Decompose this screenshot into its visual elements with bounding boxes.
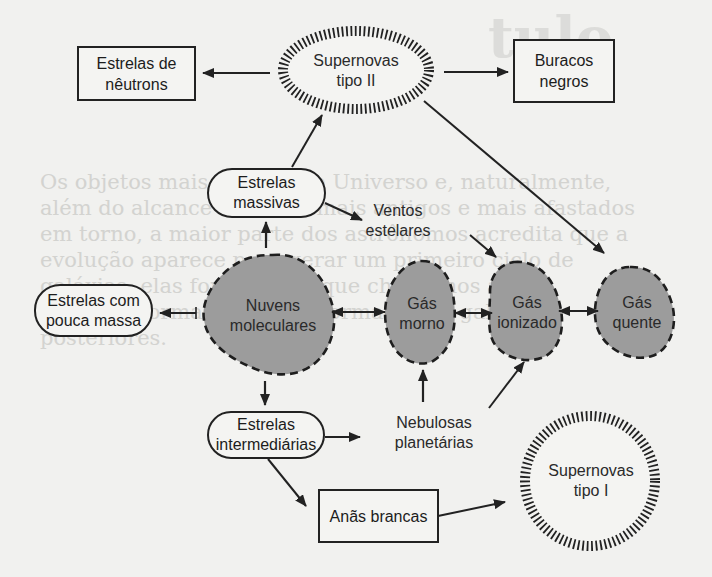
node-label: Estrelas de	[96, 53, 176, 74]
edge-winds-to-ionized	[470, 235, 496, 257]
edge-snii-to-hotgas	[424, 101, 604, 253]
node-label: Estrelas	[238, 173, 296, 193]
node-label: tipo I	[548, 481, 633, 501]
node-black-holes: Buracos negros	[513, 39, 615, 103]
node-molecular-clouds: Nuvens moleculares	[230, 296, 316, 336]
node-label: nêutrons	[105, 74, 167, 95]
node-label: Ventos	[366, 201, 431, 221]
node-label: Estrelas	[237, 415, 295, 435]
node-label: Nuvens	[230, 296, 316, 316]
node-label: Gás	[497, 293, 557, 313]
node-label: Buracos	[535, 50, 594, 71]
edge-clouds-to-lowmass	[160, 307, 196, 319]
node-label: morno	[399, 314, 444, 334]
node-planetary-nebulae: Nebulosas planetárias	[395, 413, 473, 453]
node-ionized-gas: Gás ionizado	[497, 293, 557, 333]
node-label: planetárias	[395, 433, 473, 453]
node-low-mass-stars: Estrelas com pouca massa	[34, 284, 153, 337]
node-label: ionizado	[497, 313, 557, 333]
node-label: Gás	[613, 293, 662, 313]
node-label: tipo II	[313, 71, 398, 91]
node-label: pouca massa	[46, 311, 141, 331]
node-label: moleculares	[230, 316, 316, 336]
node-massive-stars: Estrelas massivas	[207, 168, 326, 218]
node-hot-gas: Gás quente	[613, 293, 662, 333]
node-supernova-i: Supernovas tipo I	[548, 461, 633, 501]
node-label: Gás	[399, 294, 444, 314]
edge-massive-to-snii	[292, 115, 322, 167]
node-intermediate-stars: Estrelas intermediárias	[207, 411, 325, 459]
node-label: Supernovas	[313, 51, 398, 71]
node-label: Anãs brancas	[330, 506, 428, 527]
node-white-dwarfs: Anãs brancas	[318, 489, 439, 543]
node-label: Supernovas	[548, 461, 633, 481]
node-supernova-ii: Supernovas tipo II	[313, 51, 398, 91]
node-stellar-winds: Ventos estelares	[366, 201, 431, 241]
edge-massive-to-winds	[325, 203, 362, 220]
edge-nebulae-to-ionized	[489, 362, 524, 408]
node-neutron-stars: Estrelas de nêutrons	[77, 46, 196, 101]
edge-whitedwarfs-to-sni	[438, 502, 505, 516]
node-label: estelares	[366, 221, 431, 241]
node-label: negros	[540, 71, 589, 92]
node-label: massivas	[233, 193, 300, 213]
node-warm-gas: Gás morno	[399, 294, 444, 334]
node-label: intermediárias	[216, 435, 316, 455]
node-label: Nebulosas	[395, 413, 473, 433]
node-label: Estrelas com	[47, 291, 139, 311]
edge-intermediate-to-whitedwarfs	[268, 459, 306, 506]
node-label: quente	[613, 313, 662, 333]
